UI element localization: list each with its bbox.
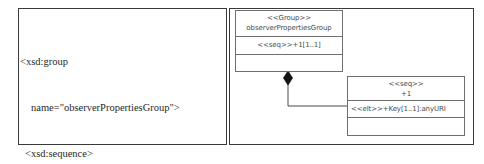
group-box-empty-row [236,55,342,72]
seq-multiplicity: +1 [350,90,462,100]
filled-diamond-icon [284,71,293,85]
group-title: observerPropertiesGroup [238,24,340,34]
figure-root: <xsd:group name="observerPropertiesGroup… [0,0,484,164]
seq-box-element-row: <<elt>>+Key[1..1]:anyURI [348,101,464,118]
group-sequence-label: <<seq>>+1[1..1] [238,41,340,51]
xsd-source-panel: <xsd:group name="observerPropertiesGroup… [18,8,227,145]
uml-box-group[interactable]: <<Group>> observerPropertiesGroup <<seq>… [235,10,343,72]
seq-stereotype: <<seq>> [350,80,462,90]
group-box-header: <<Group>> observerPropertiesGroup [236,11,342,37]
group-stereotype: <<Group>> [238,14,340,24]
xsd-code-block: <xsd:group name="observerPropertiesGroup… [20,24,245,164]
seq-box-header: <<seq>> +1 [348,77,464,101]
code-line-1: <xsd:group [20,54,245,69]
group-box-sequence-row: <<seq>>+1[1..1] [236,37,342,55]
code-line-3: <xsd:sequence> [20,146,245,161]
uml-diagram-panel: <<Group>> observerPropertiesGroup <<seq>… [229,8,474,145]
seq-box-empty-row [348,118,464,135]
code-line-2: name="observerPropertiesGroup"> [20,100,245,115]
seq-element-label: <<elt>>+Key[1..1]:anyURI [351,105,462,115]
uml-box-seq[interactable]: <<seq>> +1 <<elt>>+Key[1..1]:anyURI [347,76,465,136]
